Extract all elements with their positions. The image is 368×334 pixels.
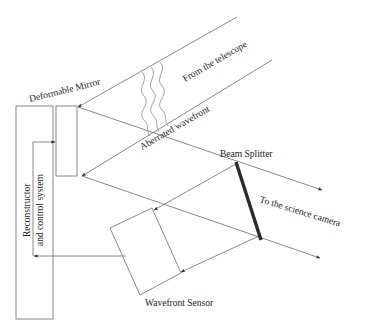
label-beam-splitter: Beam Splitter bbox=[220, 149, 273, 159]
label-from-telescope: From the telescope bbox=[181, 39, 249, 84]
label-science-camera: To the science camera bbox=[258, 194, 342, 228]
aberrated-wavefront-waves bbox=[141, 62, 168, 136]
deformable-mirror-box bbox=[56, 106, 77, 176]
reflected-beams bbox=[78, 107, 322, 258]
adaptive-optics-diagram: Deformable Mirror From the telescope Abe… bbox=[0, 0, 368, 334]
label-aberrated-wavefront: Aberrated wavefront bbox=[138, 103, 212, 151]
control-loop bbox=[33, 142, 126, 256]
wavefront-sensor-box bbox=[110, 208, 181, 295]
beam-splitter bbox=[236, 162, 261, 240]
label-reconstructor: Reconstructor bbox=[22, 183, 32, 237]
label-control-system: and control system bbox=[35, 174, 45, 246]
label-wavefront-sensor: Wavefront Sensor bbox=[145, 298, 214, 308]
